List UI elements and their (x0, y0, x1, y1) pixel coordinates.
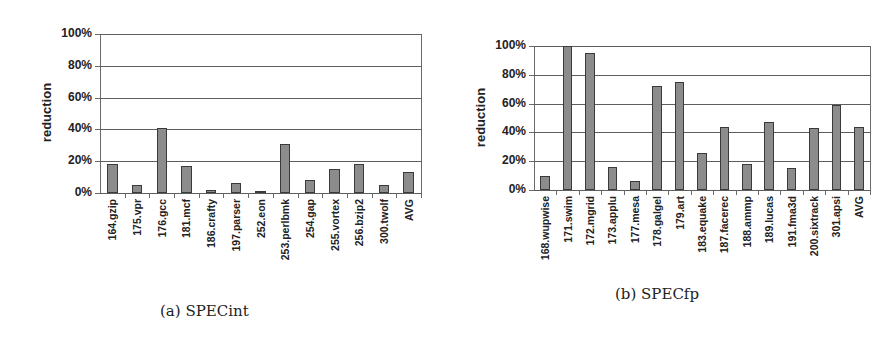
x-tick-label: 187.facerec (718, 196, 730, 276)
x-tick (848, 190, 849, 195)
x-tick-label: 179.art (674, 196, 686, 276)
x-tick (758, 190, 759, 195)
x-tick-label: 254.gap (304, 199, 316, 279)
x-tick (322, 193, 323, 198)
x-tick-label: 252.eon (255, 199, 267, 279)
gridline (100, 161, 421, 162)
x-tick (624, 190, 625, 195)
bar (540, 176, 549, 190)
x-tick (601, 190, 602, 195)
y-axis-title: reduction (39, 78, 54, 148)
bar (157, 128, 167, 193)
plot-area (534, 46, 871, 190)
y-tick-label: 100% (482, 38, 526, 52)
gridline (100, 193, 421, 194)
bar (206, 190, 216, 193)
bar (585, 53, 594, 190)
y-tick (529, 104, 534, 105)
y-tick-label: 80% (48, 58, 92, 72)
gridline (100, 98, 421, 99)
caption-specint: (a) SPECint (160, 302, 249, 320)
x-tick (713, 190, 714, 195)
bar (132, 185, 142, 193)
bar (231, 183, 241, 193)
y-tick (529, 75, 534, 76)
bar (720, 127, 729, 190)
bar (630, 181, 639, 190)
y-tick (95, 98, 100, 99)
plot-area (100, 34, 422, 193)
x-tick (803, 190, 804, 195)
x-tick (298, 193, 299, 198)
y-tick-label: 20% (482, 153, 526, 167)
bar (329, 169, 339, 193)
x-tick (691, 190, 692, 195)
x-tick-label: 175.vpr (131, 199, 143, 279)
x-tick (825, 190, 826, 195)
x-tick (273, 193, 274, 198)
y-tick (95, 193, 100, 194)
x-tick-label: 178.galgel (651, 196, 663, 276)
y-tick (95, 129, 100, 130)
y-tick (529, 161, 534, 162)
x-tick-label: 255.vortex (329, 199, 341, 279)
bar (403, 172, 413, 193)
x-tick (646, 190, 647, 195)
x-tick (780, 190, 781, 195)
bar (181, 166, 191, 193)
gridline (100, 66, 421, 67)
gridline (100, 129, 421, 130)
x-tick (199, 193, 200, 198)
x-tick (174, 193, 175, 198)
x-tick-label: 301.apsi (830, 196, 842, 276)
y-tick (95, 66, 100, 67)
x-tick-label: 188.ammp (741, 196, 753, 276)
bar (832, 105, 841, 190)
x-tick-label: 172.mgrid (584, 196, 596, 276)
bar (107, 164, 117, 193)
x-tick-label: AVG (853, 196, 865, 276)
bar (697, 153, 706, 190)
y-axis-title: reduction (473, 83, 488, 153)
bar (854, 127, 863, 190)
bar (255, 191, 265, 193)
x-tick (372, 193, 373, 198)
x-tick-label: 256.bzip2 (353, 199, 365, 279)
x-tick-label: 173.applu (606, 196, 618, 276)
gridline (534, 190, 870, 191)
x-tick (125, 193, 126, 198)
x-tick-label: 168.wupwise (539, 196, 551, 276)
x-tick (556, 190, 557, 195)
bar (742, 164, 751, 190)
bar (809, 128, 818, 190)
y-tick-label: 40% (482, 124, 526, 138)
x-tick (347, 193, 348, 198)
x-tick-label: AVG (403, 199, 415, 279)
x-tick-label: 183.equake (696, 196, 708, 276)
gridline (100, 34, 421, 35)
bar (354, 164, 364, 193)
x-tick (396, 193, 397, 198)
x-tick-label: 200.sixtrack (808, 196, 820, 276)
x-tick (736, 190, 737, 195)
x-tick-label: 176.gcc (156, 199, 168, 279)
x-tick (149, 193, 150, 198)
y-tick-label: 20% (48, 153, 92, 167)
x-tick-label: 181.mcf (180, 199, 192, 279)
y-tick (529, 46, 534, 47)
bar (305, 180, 315, 193)
x-tick (223, 193, 224, 198)
bar (608, 167, 617, 190)
x-tick-label: 197.parser (230, 199, 242, 279)
y-tick (95, 34, 100, 35)
y-tick-label: 40% (48, 121, 92, 135)
x-tick-label: 164.gzip (106, 199, 118, 279)
x-tick (579, 190, 580, 195)
bar (652, 86, 661, 190)
bar (787, 168, 796, 190)
bar (379, 185, 389, 193)
gridline (534, 46, 870, 47)
bar (563, 46, 572, 190)
x-tick-label: 171.swim (562, 196, 574, 276)
x-tick-label: 189.lucas (763, 196, 775, 276)
